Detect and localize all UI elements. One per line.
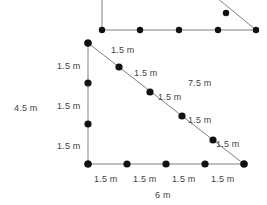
dimension-label-seg-left-2: 1.5 m — [57, 101, 81, 111]
bottom-edge-dot — [123, 160, 130, 167]
top-partial-bottom-dot — [253, 27, 259, 33]
top-partial-bottom-dot — [99, 27, 105, 33]
top-partial-bottom-dot — [176, 27, 182, 33]
dimension-label-seg-hyp-5: 1.5 m — [216, 139, 240, 149]
top-partial-bottom-dot — [215, 27, 221, 33]
dimension-label-seg-bot-1: 1.5 m — [94, 174, 118, 184]
dimension-label-seg-left-1: 1.5 m — [57, 61, 81, 71]
bottom-edge-dot — [84, 160, 91, 167]
hypotenuse-dot — [115, 63, 122, 70]
top-partial-figure — [99, 0, 259, 33]
dimension-label-total-bot: 6 m — [155, 190, 171, 200]
top-partial-hyp-dot — [223, 10, 229, 16]
dimension-label-seg-bot-4: 1.5 m — [211, 174, 235, 184]
dimension-label-seg-left-3: 1.5 m — [57, 141, 81, 151]
dimension-label-seg-hyp-3: 1.5 m — [158, 92, 182, 102]
dimension-label-seg-hyp-4: 1.5 m — [188, 115, 212, 125]
bottom-edge-dot — [201, 160, 208, 167]
dimension-label-seg-bot-3: 1.5 m — [172, 174, 196, 184]
dimension-label-total-hyp: 7.5 m — [188, 78, 212, 88]
dimension-label-total-left: 4.5 m — [14, 103, 38, 113]
hypotenuse-dot — [178, 112, 185, 119]
left-edge-dot — [84, 79, 91, 86]
hypotenuse-dot — [146, 88, 153, 95]
dimension-label-seg-hyp-1: 1.5 m — [111, 45, 135, 55]
dimension-label-seg-hyp-2: 1.5 m — [134, 68, 158, 78]
dimension-label-seg-bot-2: 1.5 m — [133, 174, 157, 184]
top-partial-bottom-dot — [137, 27, 143, 33]
bottom-edge-dot — [162, 160, 169, 167]
top-partial-hypotenuse — [205, 0, 256, 30]
hypotenuse-dot — [240, 160, 247, 167]
hypotenuse-dot — [84, 39, 91, 46]
left-edge-dot — [84, 120, 91, 127]
